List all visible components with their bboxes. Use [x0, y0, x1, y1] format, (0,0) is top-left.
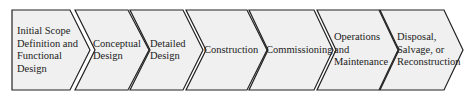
step-5-label: Commissioning [266, 43, 332, 57]
step-7-label: Disposal, Salvage, or Reconstruction [397, 30, 459, 70]
step-4-label: Construction [204, 43, 266, 57]
step-1-label: Initial Scope Definition and Functional … [17, 22, 83, 78]
step-3-label: Detailed Design [150, 36, 198, 64]
step-6-label: Operations and Maintenance [334, 30, 396, 70]
step-2-label: Conceptual Design [93, 36, 145, 64]
